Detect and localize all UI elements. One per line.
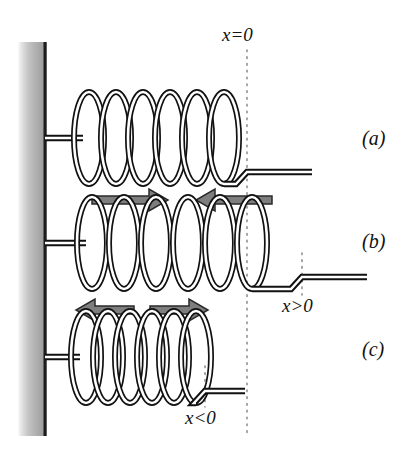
spring-relaxed	[45, 92, 312, 184]
panel-c-text: (c)	[362, 338, 384, 360]
x-zero-text: x=0	[222, 24, 253, 45]
panel-label-c: (c)	[362, 339, 384, 359]
wall	[18, 42, 47, 436]
figure-canvas	[0, 0, 415, 452]
x-positive-label: x>0	[282, 296, 313, 315]
spring-stretched	[45, 189, 367, 289]
x-negative-text: x<0	[185, 407, 216, 428]
x-positive-text: x>0	[282, 295, 313, 316]
panel-label-a: (a)	[362, 128, 385, 148]
x-zero-label: x=0	[222, 25, 253, 44]
x-negative-label: x<0	[185, 408, 216, 427]
spring-c-coils	[71, 311, 211, 403]
spring-a-coils	[74, 92, 239, 184]
spring-compressed	[45, 299, 245, 403]
reference-lines	[205, 50, 302, 437]
panel-a-text: (a)	[362, 127, 385, 149]
spring-b-free-end-rod	[252, 277, 367, 289]
panel-label-b: (b)	[362, 231, 385, 251]
spring-diagram-figure: x=0 x>0 x<0 (a) (b) (c)	[0, 0, 415, 452]
panel-b-text: (b)	[362, 230, 385, 252]
spring-a-free-end-rod	[224, 172, 312, 184]
spring-b-coils	[77, 197, 267, 289]
